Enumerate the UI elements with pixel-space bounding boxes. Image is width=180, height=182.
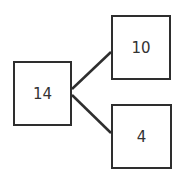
node-child-bottom: 4 bbox=[111, 104, 172, 169]
node-child-top: 10 bbox=[111, 15, 171, 80]
edge-14-4 bbox=[72, 95, 111, 133]
node-root: 14 bbox=[13, 61, 72, 126]
node-label: 14 bbox=[33, 85, 52, 103]
node-label: 10 bbox=[131, 39, 150, 57]
node-label: 4 bbox=[137, 128, 147, 146]
edge-14-10 bbox=[72, 52, 111, 89]
